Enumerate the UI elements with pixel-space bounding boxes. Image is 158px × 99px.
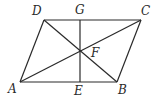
label-f: F <box>90 46 100 60</box>
segment-da <box>20 20 44 82</box>
label-g: G <box>75 3 85 17</box>
label-e: E <box>73 84 83 98</box>
label-b: B <box>117 83 127 97</box>
label-a: A <box>7 82 17 96</box>
label-c: C <box>141 4 150 18</box>
label-d: D <box>31 4 42 18</box>
geometry-diagram: A B C D E F G <box>0 0 158 99</box>
segment-bc <box>117 20 141 82</box>
segments <box>20 20 141 82</box>
